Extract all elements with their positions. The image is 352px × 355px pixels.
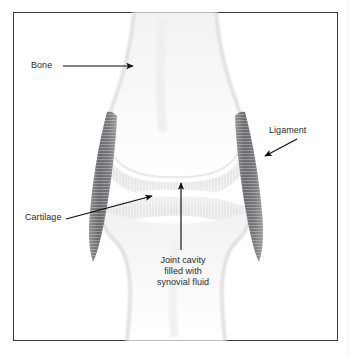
label-joint-cavity-line1: Joint cavity	[138, 255, 228, 266]
label-joint-cavity-line2: filled with	[138, 266, 228, 277]
joint-anatomy-illustration	[13, 12, 338, 341]
label-ligament: Ligament	[269, 125, 306, 136]
ligament-leader-arrow	[265, 139, 297, 156]
label-joint-cavity-line3: synovial fluid	[138, 277, 228, 288]
upper-bone	[107, 12, 243, 177]
label-joint-cavity: Joint cavity filled with synovial fluid	[138, 255, 228, 289]
label-bone: Bone	[31, 60, 52, 71]
scan-artifact-line	[348, 0, 349, 355]
label-cartilage: Cartilage	[25, 212, 61, 223]
figure-root: Bone Ligament Cartilage Joint cavity fil…	[0, 0, 352, 355]
